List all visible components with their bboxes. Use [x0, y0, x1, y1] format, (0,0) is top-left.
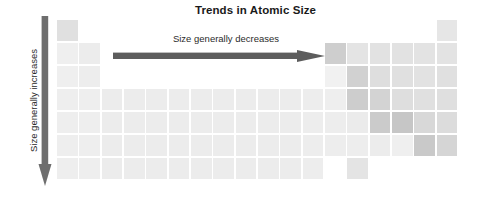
element-cell — [392, 43, 413, 64]
element-cell — [213, 158, 234, 179]
element-cell — [57, 158, 78, 179]
element-cell — [57, 20, 78, 41]
element-cell — [102, 89, 123, 110]
element-cell — [414, 43, 435, 64]
element-cell — [57, 112, 78, 133]
element-cell — [437, 66, 458, 87]
element-cell — [370, 89, 391, 110]
element-cell — [370, 112, 391, 133]
element-cell — [414, 135, 435, 156]
element-cell — [392, 135, 413, 156]
element-cell — [437, 43, 458, 64]
element-cell — [124, 112, 145, 133]
element-cell — [370, 135, 391, 156]
element-cell — [280, 135, 301, 156]
element-cell — [325, 135, 346, 156]
element-cell — [191, 89, 212, 110]
element-cell — [325, 89, 346, 110]
element-cell — [347, 43, 368, 64]
element-cell — [191, 158, 212, 179]
element-cell — [347, 66, 368, 87]
element-cell — [236, 112, 257, 133]
atomic-size-trends-figure: Trends in Atomic Size Size generally dec… — [0, 0, 489, 197]
element-cell — [124, 135, 145, 156]
element-cell — [169, 158, 190, 179]
element-cell — [258, 158, 279, 179]
element-cell — [146, 89, 167, 110]
element-cell — [325, 112, 346, 133]
element-cell — [392, 66, 413, 87]
element-cell — [392, 89, 413, 110]
element-cell — [303, 112, 324, 133]
element-cell — [258, 89, 279, 110]
element-cell — [236, 158, 257, 179]
element-cell — [79, 135, 100, 156]
element-cell — [169, 112, 190, 133]
element-cell — [370, 43, 391, 64]
element-cell — [191, 112, 212, 133]
element-cell — [57, 89, 78, 110]
element-cell — [414, 112, 435, 133]
element-cell — [124, 158, 145, 179]
element-cell — [102, 135, 123, 156]
element-cell — [303, 89, 324, 110]
element-cell — [79, 43, 100, 64]
element-cell — [437, 89, 458, 110]
element-cell — [437, 135, 458, 156]
element-cell — [258, 112, 279, 133]
element-cell — [280, 158, 301, 179]
element-cell — [325, 43, 346, 64]
element-cell — [146, 135, 167, 156]
vertical-trend-annotation: Size generally increases — [12, 16, 54, 188]
element-cell — [236, 89, 257, 110]
element-cell — [213, 112, 234, 133]
element-cell — [437, 112, 458, 133]
element-cell — [437, 20, 458, 41]
element-cell — [414, 89, 435, 110]
element-cell — [169, 89, 190, 110]
element-cell — [347, 158, 368, 179]
element-cell — [79, 66, 100, 87]
element-cell — [347, 89, 368, 110]
element-cell — [347, 135, 368, 156]
element-cell — [213, 89, 234, 110]
element-cell — [124, 89, 145, 110]
page-title: Trends in Atomic Size — [0, 4, 489, 16]
element-cell — [213, 135, 234, 156]
element-cell — [303, 135, 324, 156]
element-cell — [57, 135, 78, 156]
element-cell — [79, 89, 100, 110]
element-cell — [325, 66, 346, 87]
element-cell — [347, 112, 368, 133]
element-cell — [102, 158, 123, 179]
element-cell — [79, 112, 100, 133]
element-cell — [191, 135, 212, 156]
element-cell — [280, 112, 301, 133]
element-cell — [79, 158, 100, 179]
element-cell — [146, 112, 167, 133]
element-cell — [57, 66, 78, 87]
element-cell — [280, 89, 301, 110]
element-cell — [236, 135, 257, 156]
element-cell — [414, 66, 435, 87]
element-cell — [146, 158, 167, 179]
element-cell — [370, 66, 391, 87]
periodic-table-grid — [57, 20, 459, 181]
vertical-trend-label: Size generally increases — [28, 17, 39, 185]
down-arrow-icon — [38, 16, 52, 186]
element-cell — [102, 112, 123, 133]
element-cell — [258, 135, 279, 156]
element-cell — [303, 158, 324, 179]
element-cell — [57, 43, 78, 64]
element-cell — [392, 112, 413, 133]
element-cell — [169, 135, 190, 156]
